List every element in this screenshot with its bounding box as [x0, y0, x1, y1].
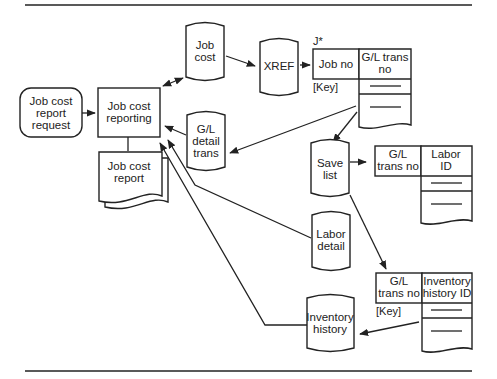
svg-text:Job no: Job no — [319, 58, 354, 70]
gl-detail-trans-data-store: G/L detail trans — [187, 112, 225, 171]
save-list-data-store: Save list — [311, 140, 349, 197]
svg-text:trans no: trans no — [377, 160, 419, 172]
svg-text:history: history — [313, 323, 347, 335]
svg-text:XREF: XREF — [264, 60, 295, 72]
xref-record-table: J* Job no G/L trans no [Key] — [313, 35, 411, 128]
svg-text:list: list — [323, 169, 338, 181]
xref-data-store: XREF — [260, 39, 298, 96]
svg-text:Job cost: Job cost — [108, 160, 152, 172]
job-cost-report-document: Job cost report — [99, 152, 168, 209]
svg-text:G/L: G/L — [197, 123, 216, 135]
labor-record-table: G/L trans no Labor ID — [375, 146, 472, 224]
job-cost-data-store: Job cost — [186, 23, 224, 81]
svg-text:Save: Save — [317, 157, 343, 169]
svg-text:Labor: Labor — [316, 228, 346, 240]
svg-text:[Key]: [Key] — [376, 305, 401, 317]
svg-text:G/L trans: G/L trans — [362, 51, 409, 63]
job-cost-report-request: Job cost report request — [20, 88, 82, 137]
svg-text:trans: trans — [193, 147, 219, 159]
svg-text:Inventory: Inventory — [423, 275, 471, 287]
job-cost-reporting-process: Job cost reporting — [98, 88, 160, 137]
svg-text:G/L: G/L — [390, 275, 409, 287]
labor-detail-data-store: Labor detail — [312, 212, 350, 271]
svg-text:Job cost: Job cost — [30, 95, 74, 107]
svg-text:detail: detail — [192, 135, 220, 147]
svg-text:report: report — [114, 172, 145, 184]
svg-text:[Key]: [Key] — [313, 81, 338, 93]
svg-text:detail: detail — [317, 240, 345, 252]
svg-text:request: request — [32, 119, 71, 131]
svg-text:history ID: history ID — [423, 287, 472, 299]
svg-text:ID: ID — [440, 160, 452, 172]
svg-text:J*: J* — [313, 35, 324, 47]
svg-text:Labor: Labor — [431, 148, 461, 160]
svg-text:Inventory: Inventory — [306, 311, 354, 323]
svg-text:reporting: reporting — [106, 112, 151, 124]
inventory-record-table: G/L trans no Inventory history ID [Key] — [376, 273, 472, 352]
svg-text:no: no — [379, 63, 392, 75]
svg-text:Job cost: Job cost — [108, 100, 152, 112]
svg-text:report: report — [36, 107, 67, 119]
data-flow-diagram: Job cost report request Job cost reporti… — [0, 0, 497, 379]
svg-text:cost: cost — [194, 51, 216, 63]
svg-text:Job: Job — [196, 39, 215, 51]
svg-text:trans no: trans no — [378, 287, 420, 299]
svg-text:G/L: G/L — [389, 148, 408, 160]
inventory-history-data-store: Inventory history — [306, 295, 354, 352]
